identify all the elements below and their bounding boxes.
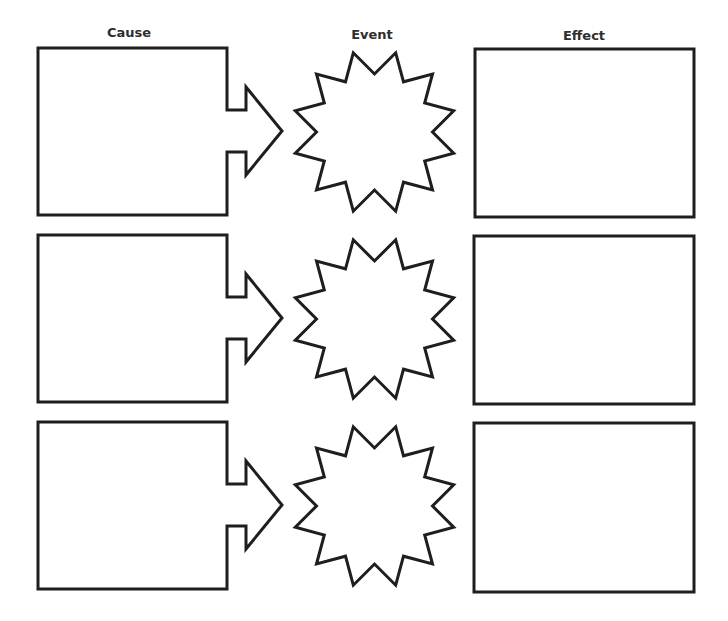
event-star-1[interactable] (295, 53, 453, 211)
cause-box-3[interactable] (38, 422, 282, 589)
event-star-3[interactable] (295, 427, 453, 585)
cause-effect-diagram (0, 0, 728, 621)
cause-box-1[interactable] (38, 48, 282, 215)
effect-box-3[interactable] (474, 423, 694, 592)
event-star-2[interactable] (295, 240, 453, 398)
cause-box-2[interactable] (38, 235, 282, 402)
effect-box-2[interactable] (474, 236, 694, 404)
effect-box-1[interactable] (475, 49, 694, 217)
